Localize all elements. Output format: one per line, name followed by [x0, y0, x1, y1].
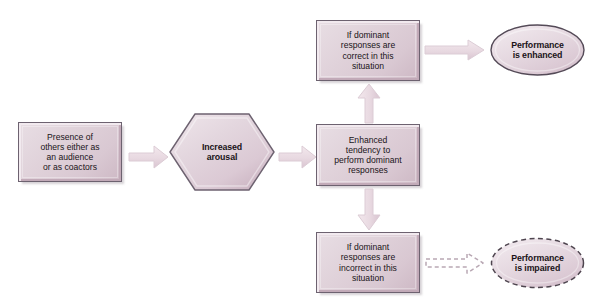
- node-increased-arousal[interactable]: Increased arousal: [168, 112, 276, 192]
- arrow-arousal-to-tendency: [278, 144, 318, 170]
- node-presence-of-others-label: Presence of others either as an audience…: [36, 132, 103, 173]
- node-presence-of-others[interactable]: Presence of others either as an audience…: [18, 122, 122, 182]
- cropped-caption-sliver: [0, 0, 595, 4]
- flowchart-canvas: Presence of others either as an audience…: [0, 0, 595, 298]
- arrow-incorrect-to-impaired: [424, 250, 486, 276]
- arrow-tendency-to-correct: [356, 82, 382, 124]
- arrow-presence-to-arousal: [128, 144, 170, 170]
- node-responses-incorrect[interactable]: If dominant responses are incorrect in t…: [316, 232, 420, 293]
- node-enhanced-tendency[interactable]: Enhanced tendency to perform dominant re…: [316, 124, 420, 186]
- node-performance-enhanced-label: Performance is enhanced: [507, 40, 568, 61]
- node-responses-correct-label: If dominant responses are correct in thi…: [337, 30, 399, 71]
- node-performance-impaired-label: Performance is impaired: [507, 253, 568, 274]
- node-enhanced-tendency-label: Enhanced tendency to perform dominant re…: [330, 135, 405, 176]
- node-performance-impaired[interactable]: Performance is impaired: [489, 236, 586, 290]
- node-responses-incorrect-label: If dominant responses are incorrect in t…: [335, 242, 401, 283]
- arrow-correct-to-enhanced: [424, 38, 486, 62]
- node-increased-arousal-label: Increased arousal: [198, 142, 246, 163]
- node-responses-correct[interactable]: If dominant responses are correct in thi…: [316, 20, 420, 81]
- node-performance-enhanced[interactable]: Performance is enhanced: [489, 23, 586, 77]
- arrow-tendency-to-incorrect: [356, 188, 382, 232]
